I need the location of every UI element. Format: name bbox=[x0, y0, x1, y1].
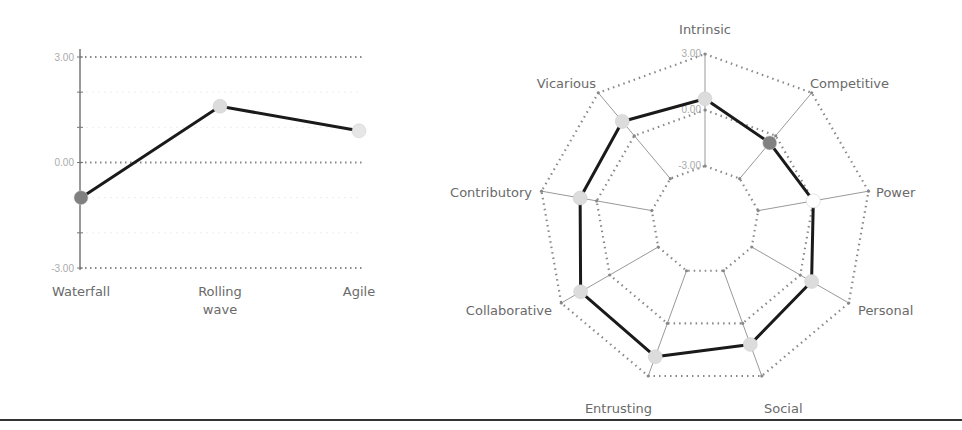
radar-data-marker bbox=[574, 285, 588, 299]
spoke-tick bbox=[595, 199, 598, 202]
y-tick-label: 0.00 bbox=[55, 157, 75, 168]
spoke-tick bbox=[847, 301, 850, 304]
spoke-tick bbox=[757, 209, 760, 212]
x-category-label: wave bbox=[203, 302, 237, 317]
spoke-tick bbox=[633, 134, 636, 137]
radar-axis-label-personal: Personal bbox=[858, 303, 913, 318]
radar-axis-label-collaborative: Collaborative bbox=[466, 303, 552, 318]
spoke-tick bbox=[760, 374, 763, 377]
radar-axis-label-competitive: Competitive bbox=[810, 76, 889, 91]
spoke-tick bbox=[867, 190, 870, 193]
spoke-tick bbox=[703, 52, 706, 55]
ring-label: -3.00 bbox=[678, 160, 701, 171]
radar-data-marker bbox=[806, 194, 820, 208]
radar-data-marker bbox=[763, 136, 777, 150]
spoke-tick bbox=[647, 374, 650, 377]
chart-canvas: 3.000.00-3.00WaterfallRollingwaveAgile 3… bbox=[0, 0, 962, 430]
radar-ring bbox=[652, 166, 758, 271]
data-point-marker bbox=[352, 124, 366, 138]
data-line bbox=[81, 106, 359, 197]
spoke-tick bbox=[703, 108, 706, 111]
y-tick-label: -3.00 bbox=[51, 263, 74, 274]
radar-data-marker bbox=[573, 191, 587, 205]
spoke-tick bbox=[722, 269, 725, 272]
radar-axis-label-intrinsic: Intrinsic bbox=[679, 22, 731, 37]
spoke-tick bbox=[810, 91, 813, 94]
radar-axis-label-contributory: Contributory bbox=[450, 185, 532, 200]
radar-axis-label-power: Power bbox=[876, 185, 916, 200]
spoke-tick bbox=[608, 273, 611, 276]
spoke-tick bbox=[738, 177, 741, 180]
spoke-tick bbox=[560, 301, 563, 304]
radar-data-marker bbox=[805, 275, 819, 289]
spoke-tick bbox=[685, 269, 688, 272]
ring-label: 3.00 bbox=[682, 48, 702, 59]
spoke-tick bbox=[669, 177, 672, 180]
spoke-tick bbox=[703, 164, 706, 167]
radar-axis-label-social: Social bbox=[764, 401, 803, 416]
radar-data-marker bbox=[698, 92, 712, 106]
spoke-tick bbox=[657, 245, 660, 248]
radar-data-line bbox=[580, 99, 813, 357]
x-category-label: Rolling bbox=[198, 284, 242, 299]
y-tick-label: 3.00 bbox=[55, 52, 75, 63]
spoke-tick bbox=[799, 273, 802, 276]
spoke-tick bbox=[540, 190, 543, 193]
data-point-marker bbox=[213, 99, 227, 113]
spoke-tick bbox=[666, 322, 669, 325]
radar-axis-label-entrusting: Entrusting bbox=[585, 401, 652, 416]
line-chart: 3.000.00-3.00WaterfallRollingwaveAgile bbox=[51, 49, 375, 317]
radar-chart: 3.000.00-3.00IntrinsicCompetitivePowerPe… bbox=[450, 22, 916, 416]
spoke-tick bbox=[650, 209, 653, 212]
radar-data-marker bbox=[648, 350, 662, 364]
radar-data-marker bbox=[615, 114, 629, 128]
data-point-marker bbox=[74, 191, 88, 205]
x-category-label: Agile bbox=[343, 284, 375, 299]
x-category-label: Waterfall bbox=[52, 284, 110, 299]
radar-axis-label-vicarious: Vicarious bbox=[537, 76, 596, 91]
spoke-tick bbox=[741, 322, 744, 325]
radar-data-marker bbox=[743, 337, 757, 351]
spoke-tick bbox=[774, 134, 777, 137]
spoke-tick bbox=[750, 245, 753, 248]
spoke-tick bbox=[597, 91, 600, 94]
